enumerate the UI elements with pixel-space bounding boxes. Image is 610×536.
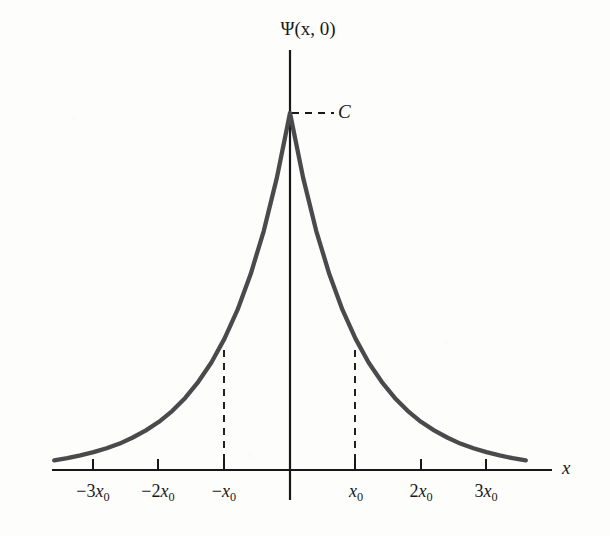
tick-prefix: −2 [141, 481, 160, 501]
tick-var: x [222, 481, 230, 501]
x-axis-label: x [562, 457, 570, 479]
tick-prefix: −3 [76, 481, 95, 501]
tick-var: x [161, 481, 169, 501]
tick-subscript: 0 [104, 490, 110, 504]
tick-label-x0: x0 [321, 481, 391, 505]
tick-subscript: 0 [426, 490, 432, 504]
tick-subscript: 0 [230, 490, 236, 504]
y-axis-label: Ψ(x, 0) [0, 18, 610, 40]
tick-var: x [349, 481, 357, 501]
tick-label-minus-3x0: −3x0 [58, 481, 128, 505]
tick-subscript: 0 [491, 490, 497, 504]
tick-subscript: 0 [357, 490, 363, 504]
tick-subscript: 0 [169, 490, 175, 504]
tick-var: x [96, 481, 104, 501]
tick-label-minus-2x0: −2x0 [123, 481, 193, 505]
tick-label-minus-x0: −x0 [189, 481, 259, 505]
tick-label-3x0: 3x0 [451, 481, 521, 505]
amplitude-label: C [338, 101, 351, 123]
tick-label-2x0: 2x0 [386, 481, 456, 505]
figure-canvas: Ψ(x, 0) C x −3x0 −2x0 −x0 x0 2x0 3x0 [0, 0, 610, 536]
tick-prefix: − [212, 481, 222, 501]
wavefunction-plot [0, 0, 610, 536]
